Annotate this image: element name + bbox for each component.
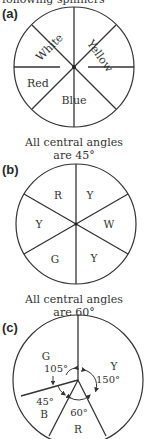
sector-blue-label: Blue — [61, 94, 86, 107]
caption-line: All central angles — [0, 136, 145, 149]
sector-yellow-label: Yellow — [84, 37, 116, 75]
angle-45-label: 45° — [36, 396, 54, 407]
spinner-a-diagram: White Yellow Red Blue — [0, 0, 145, 135]
sector-g-label: G — [51, 253, 59, 265]
spinner-b-diagram: R Y Y W G Y — [0, 155, 145, 295]
sector-y-bottom-label: Y — [90, 252, 99, 264]
caption-line: All central angles — [0, 293, 145, 306]
sector-w-label: W — [104, 218, 115, 230]
sector-red-label: Red — [27, 77, 49, 90]
sector-g-label: G — [42, 350, 50, 362]
sector-r-label: R — [54, 189, 63, 201]
sector-b-label: B — [40, 408, 48, 420]
angle-105-label: 105° — [44, 363, 68, 374]
angle-60-label: 60° — [70, 407, 88, 418]
spinner-c-diagram: G 105° Y 150° 45° B 60° R — [0, 314, 145, 439]
sector-white-label: White — [33, 31, 65, 63]
sector-r-label: R — [74, 423, 83, 435]
sector-y-left-label: Y — [35, 218, 44, 230]
sector-y-top-label: Y — [86, 189, 95, 201]
sector-y-label: Y — [110, 360, 119, 372]
angle-150-label: 150° — [96, 374, 120, 385]
